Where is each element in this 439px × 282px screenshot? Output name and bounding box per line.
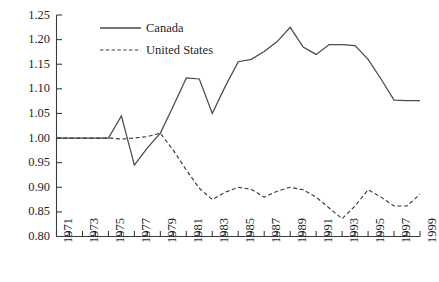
x-tick-label: 1997 [400, 218, 413, 243]
y-tick-label: 1.10 [0, 82, 50, 95]
y-tick-label: 1.05 [0, 107, 50, 120]
x-tick-label: 1971 [62, 218, 75, 243]
legend-group [100, 28, 141, 50]
x-tick-label: 1973 [88, 218, 101, 243]
legend-label-united-states: United States [146, 44, 213, 57]
x-tick-label: 1985 [244, 218, 257, 243]
x-tick-label: 1991 [322, 218, 335, 243]
y-tick-label: 0.80 [0, 230, 50, 243]
y-tick-label: 1.15 [0, 58, 50, 71]
y-tick-label: 1.20 [0, 33, 50, 46]
x-tick-marks [57, 231, 421, 237]
legend-label-canada: Canada [146, 22, 183, 35]
x-tick-label: 1999 [426, 218, 439, 243]
x-tick-label: 1977 [140, 218, 153, 243]
x-tick-label: 1995 [374, 218, 387, 243]
y-tick-label: 0.95 [0, 156, 50, 169]
x-tick-label: 1981 [192, 218, 205, 243]
axes-group [57, 15, 421, 237]
y-tick-label: 1.25 [0, 9, 50, 22]
y-tick-label: 1.00 [0, 132, 50, 145]
y-tick-label: 0.85 [0, 205, 50, 218]
x-tick-label: 1993 [348, 218, 361, 243]
x-tick-label: 1979 [166, 218, 179, 243]
x-tick-label: 1987 [270, 218, 283, 243]
x-tick-label: 1983 [218, 218, 231, 243]
y-tick-marks [57, 15, 63, 237]
series-line-canada [57, 27, 421, 165]
series-line-united-states [57, 133, 421, 219]
x-tick-label: 1975 [114, 218, 127, 243]
y-tick-label: 0.90 [0, 181, 50, 194]
x-tick-label: 1989 [296, 218, 309, 243]
